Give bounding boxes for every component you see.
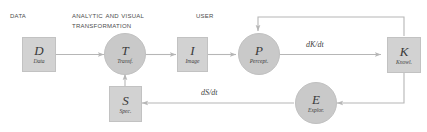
edge-label-dk-dt: dK/dt <box>306 40 324 49</box>
header-user: User <box>196 11 214 21</box>
node-p-sublabel: Percept. <box>250 58 269 65</box>
edge-k-to-p-feedback <box>258 17 404 36</box>
node-k-symbol: K <box>400 45 409 58</box>
node-k[interactable]: K Knowl. <box>387 37 421 73</box>
node-s-symbol: S <box>122 94 129 107</box>
node-i-symbol: I <box>190 44 194 57</box>
header-analytic-and-visual-transformation: Analytic and visual transformation <box>72 11 144 31</box>
node-k-sublabel: Knowl. <box>396 59 412 66</box>
node-i-sublabel: Image <box>186 58 200 65</box>
header-data: Data <box>10 11 26 21</box>
node-p-symbol: P <box>255 44 263 57</box>
node-t[interactable]: T Transf. <box>104 33 146 75</box>
node-s-sublabel: Spec. <box>120 108 132 115</box>
node-t-symbol: T <box>121 44 128 57</box>
diagram-canvas: Data Analytic and visual transformation … <box>0 0 427 132</box>
node-p[interactable]: P Percept. <box>238 33 280 75</box>
node-d-symbol: D <box>34 44 43 57</box>
node-e-sublabel: Explor. <box>308 107 324 114</box>
edge-k-to-e <box>337 73 404 103</box>
node-e[interactable]: E Explor. <box>295 82 337 124</box>
node-t-sublabel: Transf. <box>117 58 133 65</box>
node-s[interactable]: S Spec. <box>109 86 142 122</box>
node-i[interactable]: I Image <box>177 37 208 72</box>
edge-label-ds-dt: dS/dt <box>201 88 217 97</box>
node-e-symbol: E <box>312 93 320 106</box>
node-d-sublabel: Data <box>33 58 44 65</box>
node-d[interactable]: D Data <box>22 37 56 72</box>
